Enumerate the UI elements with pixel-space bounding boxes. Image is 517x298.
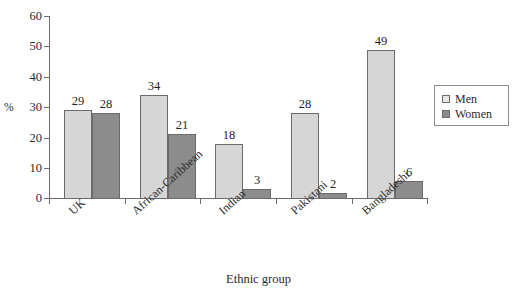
legend-item-men: Men <box>442 91 508 106</box>
x-axis-title: Ethnic group <box>0 272 517 287</box>
y-axis-tick <box>44 16 49 17</box>
bar-value-women-indian: 3 <box>243 174 271 187</box>
y-axis-tick-label: 20 <box>16 132 42 144</box>
bar-value-women-african-caribbean: 21 <box>168 119 196 132</box>
legend-swatch-women-icon <box>442 110 450 118</box>
y-axis-tick-label: 0 <box>16 192 42 204</box>
y-axis-tick <box>44 77 49 78</box>
legend-label-women: Women <box>455 108 492 120</box>
y-axis-tick-label: 50 <box>16 40 42 52</box>
y-axis-tick <box>44 168 49 169</box>
y-axis-title: % <box>4 101 14 113</box>
x-axis-tick <box>427 199 428 204</box>
bar-value-men-pakistani: 28 <box>291 98 319 111</box>
legend-item-women: Women <box>442 106 508 121</box>
y-axis-tick-label: 60 <box>16 10 42 22</box>
x-axis-tick <box>276 199 277 204</box>
bar-women-uk <box>92 113 120 199</box>
legend-swatch-men-icon <box>442 95 450 103</box>
y-axis-tick-label: 10 <box>16 162 42 174</box>
x-axis-tick <box>49 199 50 204</box>
bar-value-men-bangladeshi: 49 <box>367 35 395 48</box>
bar-value-men-uk: 29 <box>64 95 92 108</box>
x-axis-tick <box>125 199 126 204</box>
x-axis-tick <box>200 199 201 204</box>
y-axis-tick-label: 40 <box>16 71 42 83</box>
legend-label-men: Men <box>455 93 477 105</box>
y-axis-tick-label: 30 <box>16 101 42 113</box>
bar-value-women-uk: 28 <box>92 98 120 111</box>
bar-value-men-indian: 18 <box>215 129 243 142</box>
y-axis-tick <box>44 107 49 108</box>
bar-men-uk <box>64 110 92 199</box>
x-axis-tick <box>352 199 353 204</box>
bar-value-men-african-caribbean: 34 <box>140 80 168 93</box>
y-axis-tick <box>44 46 49 47</box>
bar-chart: 60 50 40 30 20 10 0 % 29 28 UK 34 21 Afr… <box>0 0 517 298</box>
y-axis-tick <box>44 138 49 139</box>
y-axis-line <box>49 16 50 199</box>
legend: Men Women <box>434 85 509 126</box>
